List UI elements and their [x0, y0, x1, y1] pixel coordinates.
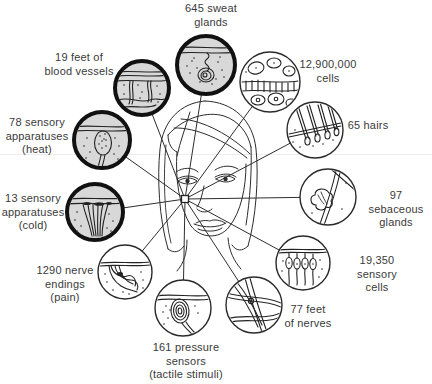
label-pressure-sensors: 161 pressure sensors (tactile stimuli) — [149, 341, 223, 382]
inset-heat-sensors — [74, 112, 130, 168]
inset-cold-sensors — [67, 184, 123, 240]
label-sebaceous-glands: 97 sebaceous glands — [369, 189, 424, 230]
label-cold-sensors: 13 sensory apparatuses (cold) — [2, 192, 65, 233]
inset-nerve-endings — [98, 245, 152, 299]
inset-cells — [240, 52, 300, 112]
inset-nerves — [226, 277, 282, 333]
label-hairs: 65 hairs — [348, 119, 389, 133]
inset-sensory-cells — [276, 236, 330, 290]
inset-sebaceous-glands — [300, 169, 356, 225]
inset-sweat-glands — [177, 36, 235, 94]
inset-blood-vessels — [115, 61, 169, 115]
label-sweat-glands: 645 sweat glands — [185, 2, 237, 29]
label-nerves: 77 feet of nerves — [284, 303, 331, 330]
inset-hairs — [287, 102, 343, 158]
inset-pressure-sensors — [155, 280, 211, 336]
label-nerve-endings: 1290 nerve endings (pain) — [36, 264, 93, 305]
hub-square-marker-icon — [182, 196, 189, 203]
label-blood-vessels: 19 feet of blood vessels — [44, 51, 113, 78]
label-heat-sensors: 78 sensory apparatuses (heat) — [6, 116, 69, 157]
skin-facts-diagram: 645 sweat glands 19 feet of blood vessel… — [0, 0, 432, 384]
woman-face-illustration — [159, 101, 257, 271]
label-cells: 12,900,000 cells — [299, 58, 356, 85]
label-sensory-cells: 19,350 sensory cells — [350, 254, 405, 295]
